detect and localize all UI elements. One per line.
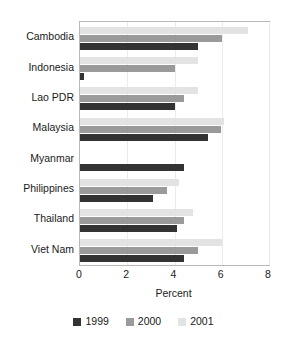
category-label-indonesia: Indonesia xyxy=(0,62,74,73)
category-label-lao-pdr: Lao PDR xyxy=(0,92,74,103)
bar-group xyxy=(80,57,269,80)
bar-cambodia-1999 xyxy=(80,43,198,50)
category-label-cambodia: Cambodia xyxy=(0,31,74,42)
category-label-malaysia: Malaysia xyxy=(0,122,74,133)
category-label-myanmar: Myanmar xyxy=(0,153,74,164)
bar-philippines-2001 xyxy=(80,179,179,186)
bar-cambodia-2000 xyxy=(80,35,222,42)
legend-item-2000[interactable]: 2000 xyxy=(126,316,161,327)
legend-swatch-icon-2001 xyxy=(178,318,186,326)
x-axis-title: Percent xyxy=(79,287,268,299)
x-tick-label-2: 2 xyxy=(114,268,138,281)
legend-label-2000: 2000 xyxy=(138,316,161,327)
gridline-x-8 xyxy=(269,22,270,265)
x-axis-tick-labels: 02468 xyxy=(79,268,268,282)
plot-inner xyxy=(80,22,269,265)
bar-thailand-2000 xyxy=(80,217,184,224)
bar-malaysia-2000 xyxy=(80,126,221,133)
bar-group xyxy=(80,209,269,232)
legend-swatch-icon-2000 xyxy=(126,318,134,326)
bar-philippines-2000 xyxy=(80,187,167,194)
bar-viet-nam-2001 xyxy=(80,239,222,246)
bar-group xyxy=(80,87,269,110)
bar-viet-nam-2000 xyxy=(80,247,198,254)
category-label-thailand: Thailand xyxy=(0,213,74,224)
bar-cambodia-2001 xyxy=(80,27,248,34)
bar-indonesia-2000 xyxy=(80,65,175,72)
legend-label-2001: 2001 xyxy=(190,316,213,327)
x-tick-label-6: 6 xyxy=(209,268,233,281)
plot-area xyxy=(79,21,270,266)
bar-group xyxy=(80,118,269,141)
bar-malaysia-2001 xyxy=(80,118,224,125)
bar-myanmar-1999 xyxy=(80,164,184,171)
legend-label-1999: 1999 xyxy=(85,316,108,327)
x-tick-label-8: 8 xyxy=(256,268,280,281)
bar-viet-nam-1999 xyxy=(80,255,184,262)
bar-thailand-1999 xyxy=(80,225,177,232)
bar-lao-pdr-2001 xyxy=(80,87,198,94)
x-tick-label-4: 4 xyxy=(162,268,186,281)
category-label-philippines: Philippines xyxy=(0,183,74,194)
legend-item-2001[interactable]: 2001 xyxy=(178,316,213,327)
bar-chart: CambodiaIndonesiaLao PDRMalaysiaMyanmarP… xyxy=(0,0,287,345)
bar-group xyxy=(80,148,269,171)
bar-indonesia-2001 xyxy=(80,57,198,64)
legend-item-1999[interactable]: 1999 xyxy=(73,316,108,327)
bar-malaysia-1999 xyxy=(80,134,208,141)
bar-group xyxy=(80,179,269,202)
bar-group xyxy=(80,239,269,262)
x-tick-label-0: 0 xyxy=(67,268,91,281)
category-label-viet-nam: Viet Nam xyxy=(0,244,74,255)
category-axis-labels: CambodiaIndonesiaLao PDRMalaysiaMyanmarP… xyxy=(0,21,74,264)
legend-swatch-icon-1999 xyxy=(73,318,81,326)
bar-philippines-1999 xyxy=(80,195,153,202)
chart-legend: 199920002001 xyxy=(0,316,287,327)
bar-indonesia-1999 xyxy=(80,73,84,80)
bar-group xyxy=(80,27,269,50)
bar-lao-pdr-2000 xyxy=(80,95,184,102)
bar-thailand-2001 xyxy=(80,209,193,216)
bar-lao-pdr-1999 xyxy=(80,103,175,110)
